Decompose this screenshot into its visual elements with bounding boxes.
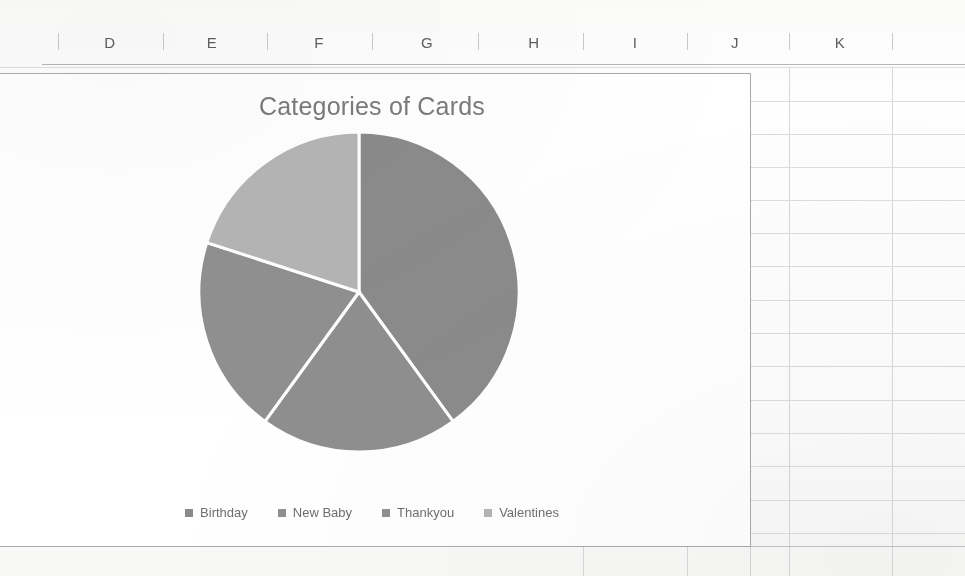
grid-line-vertical — [750, 546, 751, 576]
legend-swatch-new-baby — [278, 509, 286, 517]
pie-plot-area[interactable] — [0, 132, 751, 482]
column-divider-tick — [687, 33, 688, 50]
chart-title: Categories of Cards — [0, 92, 750, 121]
column-divider-tick — [583, 33, 584, 50]
grid-line-horizontal — [751, 333, 965, 334]
legend-swatch-thankyou — [382, 509, 390, 517]
legend-item-valentines[interactable]: Valentines — [484, 505, 559, 520]
grid-line-horizontal — [751, 466, 965, 467]
grid-line-horizontal — [751, 233, 965, 234]
grid-line-horizontal — [751, 200, 965, 201]
legend-swatch-valentines — [484, 509, 492, 517]
legend-swatch-birthday — [185, 509, 193, 517]
grid-line-horizontal — [751, 500, 965, 501]
grid-line-vertical — [583, 546, 584, 576]
chart-legend[interactable]: Birthday New Baby Thankyou Valentines — [0, 505, 750, 520]
legend-label-valentines: Valentines — [499, 505, 559, 520]
legend-label-new-baby: New Baby — [293, 505, 352, 520]
legend-label-birthday: Birthday — [200, 505, 248, 520]
chart-object[interactable]: Categories of Cards Birthday New Baby Th… — [0, 73, 751, 547]
grid-line-horizontal — [751, 167, 965, 168]
grid-line-vertical — [687, 546, 688, 576]
legend-item-birthday[interactable]: Birthday — [185, 505, 248, 520]
pie-chart-svg — [0, 132, 751, 482]
legend-label-thankyou: Thankyou — [397, 505, 454, 520]
grid-line-horizontal — [751, 533, 965, 534]
column-divider-tick — [789, 33, 790, 50]
column-divider-tick — [163, 33, 164, 50]
grid-line-horizontal — [751, 300, 965, 301]
legend-item-new-baby[interactable]: New Baby — [278, 505, 352, 520]
column-divider-tick — [892, 33, 893, 50]
legend-item-thankyou[interactable]: Thankyou — [382, 505, 454, 520]
column-divider-tick — [267, 33, 268, 50]
pie-slices — [199, 132, 519, 452]
grid-line-horizontal — [751, 266, 965, 267]
column-divider-tick — [478, 33, 479, 50]
header-rule — [42, 64, 965, 65]
grid-line-horizontal — [751, 433, 965, 434]
grid-line-horizontal — [751, 366, 965, 367]
column-divider-tick — [58, 33, 59, 50]
grid-line-horizontal — [751, 134, 965, 135]
scanned-page: D E F G H I J K — [0, 0, 965, 576]
grid-line-horizontal — [751, 400, 965, 401]
column-divider-tick — [372, 33, 373, 50]
grid-line-horizontal — [751, 101, 965, 102]
header-rule-secondary — [0, 67, 965, 68]
